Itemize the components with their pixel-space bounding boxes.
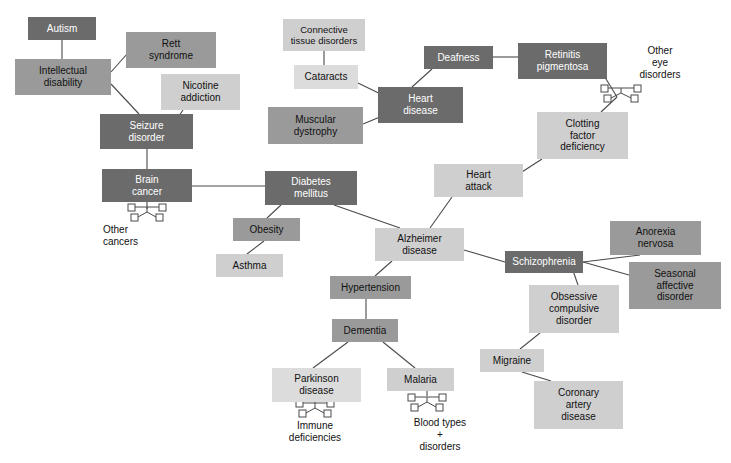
disease-network-diagram: AutismIntellectualdisabilityRettsyndrome… xyxy=(0,0,731,463)
pedigree-other-eye-disorders-icon xyxy=(601,85,641,102)
label-text-blood_types_disorders: Blood types+disorders xyxy=(414,417,466,453)
node-label-coronary_artery_disease: Coronaryarterydisease xyxy=(537,387,620,422)
edge-intellectual_disability-to-rett_syndrome xyxy=(111,54,127,72)
node-label-anorexia_nervosa: Anorexianervosa xyxy=(613,226,698,250)
node-retinitis_pigmentosa[interactable]: Retinitispigmentosa xyxy=(518,43,607,79)
node-malaria[interactable]: Malaria xyxy=(387,368,454,391)
node-label-obesity: Obesity xyxy=(236,224,297,236)
node-hypertension[interactable]: Hypertension xyxy=(330,276,411,299)
pedigree-other-cancers-icon xyxy=(128,204,166,221)
node-label-malaria: Malaria xyxy=(390,374,451,386)
node-migraine[interactable]: Migraine xyxy=(480,349,544,372)
node-intellectual_disability[interactable]: Intellectualdisability xyxy=(15,59,111,95)
edge-schizophrenia-to-seasonal_affective_disorder xyxy=(583,262,629,275)
pedigree-immune-deficiencies-icon xyxy=(296,400,334,417)
node-label-muscular_dystrophy: Musculardystrophy xyxy=(271,114,360,138)
label-blood_types_disorders: Blood types+disorders xyxy=(395,414,485,456)
label-immune_deficiencies: Immunedeficiencies xyxy=(270,418,360,446)
node-seizure_disorder[interactable]: Seizuredisorder xyxy=(100,114,193,149)
label-other_eye_disorders: Othereyedisorders xyxy=(625,42,695,84)
node-heart_disease[interactable]: Heartdisease xyxy=(378,87,463,123)
node-label-nicotine_addiction: Nicotineaddiction xyxy=(164,80,237,104)
edge-alzheimer_disease-to-schizophrenia xyxy=(464,250,505,262)
node-label-heart_disease: Heartdisease xyxy=(381,93,460,117)
node-label-cataracts: Cataracts xyxy=(297,71,355,83)
edge-schizophrenia-to-anorexia_nervosa xyxy=(583,255,640,262)
node-label-clotting_factor_deficiency: Clottingfactordeficiency xyxy=(540,118,625,153)
node-brain_cancer[interactable]: Braincancer xyxy=(102,169,192,202)
edge-alzheimer_disease-to-hypertension xyxy=(375,261,392,276)
label-text-other_eye_disorders: Othereyedisorders xyxy=(639,45,680,81)
node-deafness[interactable]: Deafness xyxy=(424,46,493,69)
node-connective_tissue_disorders[interactable]: Connectivetissue disorders xyxy=(283,19,365,51)
node-label-schizophrenia: Schizophrenia xyxy=(508,256,580,268)
node-diabetes_mellitus[interactable]: Diabetesmellitus xyxy=(265,171,357,205)
node-label-autism: Autism xyxy=(31,23,93,35)
node-nicotine_addiction[interactable]: Nicotineaddiction xyxy=(161,74,240,110)
node-label-brain_cancer: Braincancer xyxy=(105,174,189,198)
edge-intellectual_disability-to-seizure_disorder xyxy=(111,84,139,114)
edge-diabetes_mellitus-to-obesity xyxy=(267,205,281,218)
node-dementia[interactable]: Dementia xyxy=(332,319,398,342)
node-label-connective_tissue_disorders: Connectivetissue disorders xyxy=(286,24,362,46)
node-obesity[interactable]: Obesity xyxy=(233,218,300,241)
node-label-intellectual_disability: Intellectualdisability xyxy=(18,65,108,89)
node-alzheimer_disease[interactable]: Alzheimerdisease xyxy=(375,228,464,261)
edge-dementia-to-malaria xyxy=(383,342,415,368)
pedigree-blood-types-icon xyxy=(408,394,446,411)
edge-dementia-to-parkinson_disease xyxy=(313,342,348,368)
node-label-heart_attack: Heartattack xyxy=(437,169,520,193)
node-label-deafness: Deafness xyxy=(427,52,490,64)
node-obsessive_compulsive_disorder[interactable]: Obsessivecompulsivedisorder xyxy=(529,285,619,333)
node-label-dementia: Dementia xyxy=(335,325,395,337)
edge-diabetes_mellitus-to-alzheimer_disease xyxy=(334,205,400,228)
node-coronary_artery_disease[interactable]: Coronaryarterydisease xyxy=(534,381,623,429)
node-label-retinitis_pigmentosa: Retinitispigmentosa xyxy=(521,49,604,73)
node-label-rett_syndrome: Rettsyndrome xyxy=(129,38,213,62)
node-label-seasonal_affective_disorder: Seasonalaffectivedisorder xyxy=(632,268,718,303)
node-seasonal_affective_disorder[interactable]: Seasonalaffectivedisorder xyxy=(629,262,721,309)
node-rett_syndrome[interactable]: Rettsyndrome xyxy=(126,32,216,68)
label-text-immune_deficiencies: Immunedeficiencies xyxy=(289,420,341,444)
node-asthma[interactable]: Asthma xyxy=(216,254,283,277)
node-label-alzheimer_disease: Alzheimerdisease xyxy=(378,233,461,257)
node-schizophrenia[interactable]: Schizophrenia xyxy=(505,251,583,273)
node-label-diabetes_mellitus: Diabetesmellitus xyxy=(268,176,354,200)
edge-migraine-to-coronary_artery_disease xyxy=(522,372,551,381)
node-label-migraine: Migraine xyxy=(483,355,541,367)
node-label-hypertension: Hypertension xyxy=(333,282,408,294)
edge-obesity-to-asthma xyxy=(247,241,264,254)
node-muscular_dystrophy[interactable]: Musculardystrophy xyxy=(268,107,363,144)
edge-obsessive_compulsive_disorder-to-migraine xyxy=(520,333,540,349)
node-autism[interactable]: Autism xyxy=(28,17,96,40)
node-heart_attack[interactable]: Heartattack xyxy=(434,164,523,197)
label-other_cancers: Othercancers xyxy=(103,222,173,250)
label-text-other_cancers: Othercancers xyxy=(103,224,138,248)
edge-heart_attack-to-alzheimer_disease xyxy=(430,197,452,228)
node-clotting_factor_deficiency[interactable]: Clottingfactordeficiency xyxy=(537,112,628,159)
edge-deafness-to-heart_disease xyxy=(412,69,432,87)
node-label-seizure_disorder: Seizuredisorder xyxy=(103,120,190,144)
node-anorexia_nervosa[interactable]: Anorexianervosa xyxy=(610,221,701,255)
node-label-obsessive_compulsive_disorder: Obsessivecompulsivedisorder xyxy=(532,291,616,326)
node-label-parkinson_disease: Parkinsondisease xyxy=(275,373,358,397)
node-parkinson_disease[interactable]: Parkinsondisease xyxy=(272,368,361,402)
node-label-asthma: Asthma xyxy=(219,260,280,272)
node-cataracts[interactable]: Cataracts xyxy=(294,65,358,89)
